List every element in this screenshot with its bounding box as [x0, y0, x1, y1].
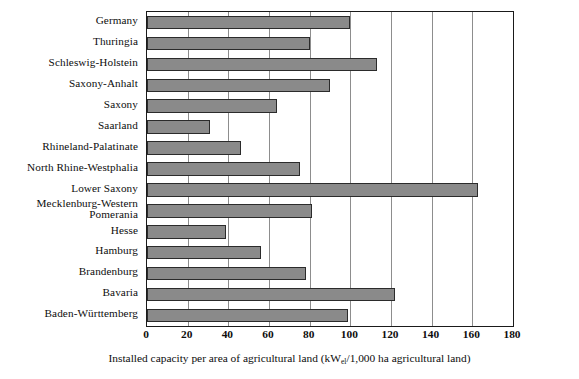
bar-row	[147, 120, 513, 134]
bar-row	[147, 99, 513, 113]
value-axis-ticks: 020406080100120140160180	[146, 328, 512, 344]
category-label: North Rhine-Westphalia	[27, 162, 138, 174]
category-label: Germany	[96, 15, 138, 27]
bar-row	[147, 37, 513, 51]
bar	[147, 162, 300, 176]
category-axis-labels: GermanyThuringiaSchleswig-HolsteinSaxony…	[0, 11, 142, 325]
x-tick-label-120: 120	[381, 328, 398, 340]
bar-row	[147, 183, 513, 197]
bar	[147, 58, 377, 72]
x-tick-label-140: 140	[422, 328, 439, 340]
bar-row	[147, 225, 513, 239]
bar-row	[147, 16, 513, 30]
gridline-180	[513, 12, 514, 326]
bar	[147, 309, 348, 323]
x-tick-label-40: 40	[222, 328, 233, 340]
category-label: Thuringia	[93, 36, 138, 48]
bar-chart: GermanyThuringiaSchleswig-HolsteinSaxony…	[0, 0, 579, 379]
x-axis-title-subscript: el	[341, 357, 346, 366]
x-tick-label-20: 20	[181, 328, 192, 340]
bar	[147, 16, 350, 30]
category-label: Saxony-Anhalt	[69, 78, 138, 90]
category-label: Saxony	[104, 99, 138, 111]
category-label: Schleswig-Holstein	[49, 57, 138, 69]
bar-row	[147, 79, 513, 93]
x-tick-label-0: 0	[143, 328, 149, 340]
x-tick-label-180: 180	[503, 328, 520, 340]
bar	[147, 225, 226, 239]
bar	[147, 141, 241, 155]
bar-row	[147, 246, 513, 260]
bar	[147, 99, 277, 113]
category-label: Lower Saxony	[71, 183, 138, 195]
category-label: Bavaria	[103, 287, 139, 299]
bar-row	[147, 267, 513, 281]
x-tick-label-100: 100	[341, 328, 358, 340]
bar-row	[147, 58, 513, 72]
x-tick-label-60: 60	[262, 328, 273, 340]
bar-row	[147, 204, 513, 218]
bar	[147, 288, 395, 302]
category-label: Hesse	[111, 225, 138, 237]
bar	[147, 183, 478, 197]
bar	[147, 79, 330, 93]
category-label: Baden-Württemberg	[45, 308, 138, 320]
category-label: Saarland	[98, 120, 138, 132]
x-tick-label-160: 160	[463, 328, 480, 340]
bars-layer	[147, 12, 513, 326]
bar	[147, 120, 210, 134]
bar-row	[147, 288, 513, 302]
bar	[147, 37, 310, 51]
bar-row	[147, 309, 513, 323]
x-tick-label-80: 80	[303, 328, 314, 340]
x-axis-title: Installed capacity per area of agricultu…	[0, 352, 579, 364]
category-label: Brandenburg	[79, 266, 138, 278]
category-label: Hamburg	[95, 245, 138, 257]
category-label: Mecklenburg-Western Pomerania	[37, 198, 138, 221]
bar	[147, 204, 312, 218]
bar	[147, 246, 261, 260]
plot-area	[146, 11, 514, 327]
bar-row	[147, 162, 513, 176]
category-label: Rhineland-Palatinate	[42, 141, 138, 153]
bar-row	[147, 141, 513, 155]
bar	[147, 267, 306, 281]
